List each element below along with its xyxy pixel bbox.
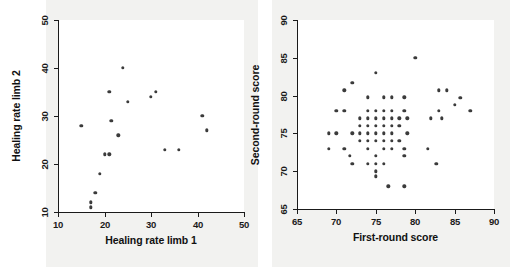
y-tick-label-healing-rate-0: 10 — [35, 206, 53, 218]
y-tick-round-scores-4 — [293, 58, 297, 59]
y-tick-label-text-round-scores-4: 85 — [277, 53, 288, 63]
y-tick-label-round-scores-3: 80 — [274, 90, 292, 102]
x-axis-title-round-scores: First-round score — [353, 231, 438, 243]
x-tick-label-healing-rate-4: 50 — [239, 219, 249, 230]
y-tick-label-text-healing-rate-2: 30 — [38, 111, 49, 121]
y-tick-label-round-scores-5: 90 — [274, 14, 292, 26]
x-tick-label-healing-rate-0: 10 — [53, 219, 63, 230]
y-tick-label-round-scores-1: 70 — [274, 165, 292, 177]
x-tick-label-healing-rate-3: 40 — [193, 219, 203, 230]
y-tick-label-text-healing-rate-4: 50 — [38, 15, 49, 25]
plot-area-round-scores — [297, 20, 494, 209]
figure-container: 10203040501020304050Healing rate limb 1H… — [0, 0, 521, 267]
x-tick-label-round-scores-4: 85 — [450, 216, 460, 227]
x-tick-label-round-scores-0: 65 — [292, 216, 302, 227]
x-tick-round-scores-0 — [297, 210, 298, 214]
x-tick-label-round-scores-2: 75 — [371, 216, 381, 227]
x-axis-line-round-scores — [297, 209, 495, 210]
y-tick-label-round-scores-2: 75 — [274, 127, 292, 139]
y-tick-label-text-round-scores-5: 90 — [277, 15, 288, 25]
y-tick-label-healing-rate-3: 40 — [35, 62, 53, 74]
x-tick-healing-rate-1 — [105, 213, 106, 217]
y-tick-round-scores-2 — [293, 133, 297, 134]
y-tick-label-text-healing-rate-1: 20 — [38, 159, 49, 169]
x-tick-label-healing-rate-1: 20 — [100, 219, 110, 230]
y-tick-healing-rate-0 — [54, 212, 58, 213]
y-tick-round-scores-3 — [293, 96, 297, 97]
y-tick-round-scores-1 — [293, 171, 297, 172]
y-axis-line-round-scores — [297, 20, 298, 210]
x-tick-round-scores-3 — [415, 210, 416, 214]
y-tick-label-healing-rate-1: 20 — [35, 158, 53, 170]
x-tick-label-round-scores-5: 90 — [489, 216, 499, 227]
y-tick-label-healing-rate-4: 50 — [35, 14, 53, 26]
x-tick-label-round-scores-1: 70 — [331, 216, 341, 227]
y-axis-title-text-round-scores: Second-round score — [249, 64, 261, 164]
y-tick-round-scores-0 — [293, 209, 297, 210]
y-tick-label-text-healing-rate-0: 10 — [38, 207, 49, 217]
y-tick-healing-rate-3 — [54, 68, 58, 69]
y-tick-label-text-round-scores-1: 70 — [277, 166, 288, 176]
y-tick-label-text-healing-rate-3: 40 — [38, 63, 49, 73]
y-tick-label-round-scores-4: 85 — [274, 52, 292, 64]
x-axis-title-healing-rate: Healing rate limb 1 — [105, 234, 196, 246]
y-tick-healing-rate-1 — [54, 164, 58, 165]
y-tick-label-round-scores-0: 65 — [274, 203, 292, 215]
x-tick-round-scores-4 — [455, 210, 456, 214]
x-tick-label-round-scores-3: 80 — [410, 216, 420, 227]
y-tick-label-text-round-scores-0: 65 — [277, 204, 288, 214]
x-tick-round-scores-1 — [336, 210, 337, 214]
y-tick-healing-rate-4 — [54, 20, 58, 21]
y-tick-label-text-round-scores-2: 75 — [277, 128, 288, 138]
plot-area-healing-rate — [58, 20, 244, 212]
y-tick-healing-rate-2 — [54, 116, 58, 117]
x-tick-healing-rate-4 — [244, 213, 245, 217]
x-tick-label-healing-rate-2: 30 — [146, 219, 156, 230]
x-tick-healing-rate-0 — [58, 213, 59, 217]
y-tick-label-healing-rate-2: 30 — [35, 110, 53, 122]
y-axis-title-text-healing-rate: Healing rate limb 2 — [10, 70, 22, 161]
y-axis-title-round-scores: Second-round score — [245, 55, 265, 175]
y-tick-round-scores-5 — [293, 20, 297, 21]
x-tick-healing-rate-2 — [151, 213, 152, 217]
y-axis-title-healing-rate: Healing rate limb 2 — [6, 56, 26, 176]
x-tick-healing-rate-3 — [198, 213, 199, 217]
y-tick-label-text-round-scores-3: 80 — [277, 91, 288, 101]
x-tick-round-scores-2 — [376, 210, 377, 214]
x-tick-round-scores-5 — [494, 210, 495, 214]
y-axis-line-healing-rate — [58, 20, 59, 213]
